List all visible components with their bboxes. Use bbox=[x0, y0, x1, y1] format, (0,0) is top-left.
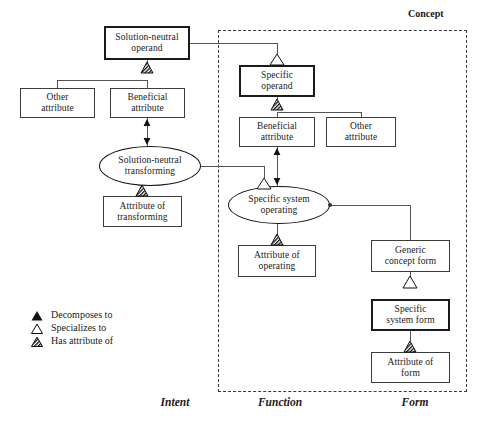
marker-decomposes-bidir-function bbox=[274, 148, 281, 185]
marker-specializes-to-form bbox=[403, 276, 417, 288]
marker-has-attribute-of-specific-operand bbox=[271, 99, 283, 110]
legend-item: Has attribute of bbox=[30, 334, 113, 347]
marker-has-attribute-of-operating bbox=[271, 234, 283, 245]
figure-caption bbox=[0, 419, 481, 426]
marker-decomposes-bidir-intent bbox=[144, 119, 151, 145]
legend: Decomposes to Specializes to Has attribu… bbox=[30, 308, 113, 347]
column-label-intent: Intent bbox=[140, 396, 210, 408]
junction-dot bbox=[328, 203, 332, 207]
marker-specializes-to-operand bbox=[270, 54, 284, 65]
marker-has-attribute-of-transforming bbox=[136, 185, 148, 196]
legend-item: Specializes to bbox=[30, 321, 113, 334]
hatched-triangle-icon bbox=[30, 334, 44, 347]
concept-frame-label: Concept bbox=[408, 8, 444, 19]
marker-has-attribute-of-form bbox=[404, 341, 416, 352]
legend-label: Has attribute of bbox=[51, 334, 113, 347]
legend-label: Specializes to bbox=[51, 321, 106, 334]
legend-item: Decomposes to bbox=[30, 308, 113, 321]
relationship-markers bbox=[0, 0, 481, 426]
column-label-function: Function bbox=[240, 396, 320, 408]
marker-specializes-to-operating bbox=[257, 178, 271, 189]
filled-triangle-icon bbox=[30, 308, 44, 321]
column-label-form: Form bbox=[380, 396, 450, 408]
legend-label: Decomposes to bbox=[51, 308, 112, 321]
diagram-canvas: Concept bbox=[0, 0, 481, 426]
marker-has-attribute-of bbox=[141, 62, 153, 73]
hollow-triangle-icon bbox=[30, 321, 44, 334]
